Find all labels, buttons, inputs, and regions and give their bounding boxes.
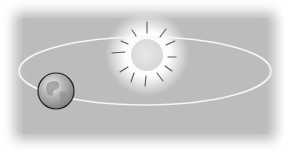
sun-icon — [131, 39, 163, 71]
earth-icon — [38, 73, 74, 109]
orbit-diagram — [0, 0, 284, 149]
